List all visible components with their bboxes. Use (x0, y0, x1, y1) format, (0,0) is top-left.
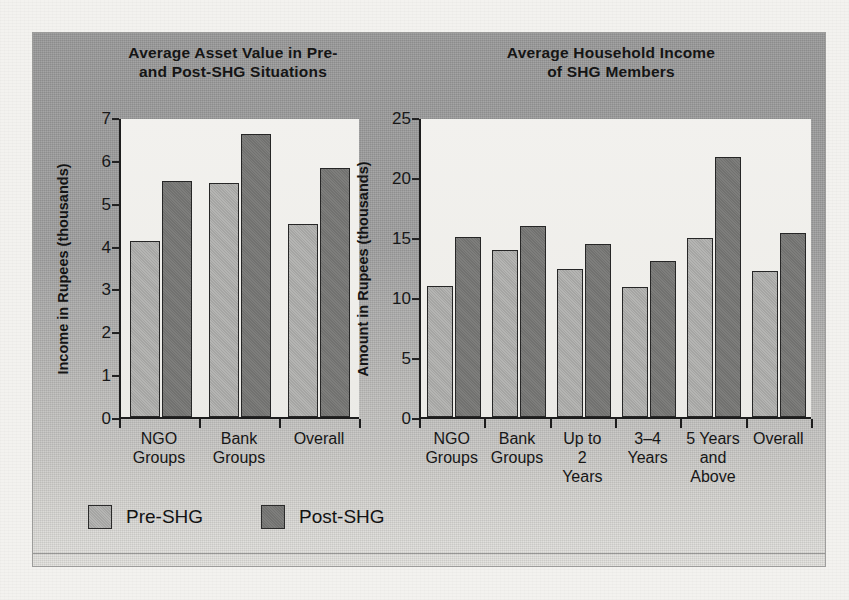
x-tick-mark (615, 419, 617, 428)
chart-title-right-line2: of SHG Members (437, 62, 785, 81)
y-axis-label-right-text: Amount in Rupees (thousands) (355, 161, 371, 376)
y-tick-mark (412, 298, 419, 300)
x-tick-mark (419, 419, 421, 428)
y-tick-mark (112, 247, 119, 249)
chart-title-left-line1: Average Asset Value in Pre- (59, 43, 407, 62)
y-tick-label: 0 (102, 409, 111, 429)
plot-area-right (419, 119, 811, 419)
y-tick-mark (112, 204, 119, 206)
x-tick-mark (680, 419, 682, 428)
x-axis-label-line: Groups (199, 448, 279, 467)
figure-legend: Pre-SHG Post-SHG (88, 505, 385, 529)
bar-pre-shg (752, 271, 778, 417)
y-tick-label: 10 (392, 289, 411, 309)
x-axis-label-line: Groups (419, 448, 484, 467)
x-axis-label-line: Bank (199, 429, 279, 448)
y-tick-label: 5 (102, 195, 111, 215)
x-tick-mark (746, 419, 748, 428)
bar-post-shg (162, 181, 192, 417)
chart-title-left-line2: and Post-SHG Situations (59, 62, 407, 81)
x-axis-label-line: Groups (484, 448, 549, 467)
x-axis-label: BankGroups (484, 429, 549, 486)
x-axis-label-line: Up to (550, 429, 615, 448)
x-tick-mark (199, 419, 201, 428)
x-axis-label-line: and (680, 448, 745, 467)
y-tick-mark (412, 178, 419, 180)
chart-title-right: Average Household Income of SHG Members (427, 43, 825, 81)
chart-title-left: Average Asset Value in Pre- and Post-SHG… (33, 43, 427, 81)
y-tick-label: 6 (102, 152, 111, 172)
x-axis-label: NGOGroups (419, 429, 484, 486)
bar-group (486, 119, 551, 417)
y-tick-label: 1 (102, 366, 111, 386)
bar-pre-shg (557, 269, 583, 417)
y-axis-ticks-left: 01234567 (75, 119, 119, 419)
bar-series-left (121, 119, 359, 417)
y-axis-label-right: Amount in Rupees (thousands) (351, 119, 375, 419)
y-tick-label: 5 (402, 349, 411, 369)
plot-area-left (119, 119, 359, 419)
x-tick-mark (279, 419, 281, 428)
bar-pre-shg (687, 238, 713, 417)
chart-titles: Average Asset Value in Pre- and Post-SHG… (33, 43, 825, 81)
legend-label-post-shg: Post-SHG (299, 506, 385, 528)
y-tick-label: 4 (102, 238, 111, 258)
x-tick-mark (484, 419, 486, 428)
x-axis-labels-right: NGOGroupsBankGroupsUp to2Years3–4Years5 … (419, 429, 811, 486)
legend-swatch-post-shg-icon (261, 505, 285, 529)
bar-post-shg (780, 233, 806, 417)
bar-pre-shg (622, 287, 648, 417)
bar-pre-shg (492, 250, 518, 417)
y-tick-mark (112, 418, 119, 420)
y-tick-mark (112, 161, 119, 163)
x-axis-label-line: 2 (550, 448, 615, 467)
x-axis-label: 5 YearsandAbove (680, 429, 745, 486)
y-tick-label: 20 (392, 169, 411, 189)
bar-post-shg (585, 244, 611, 417)
x-axis-ticks-left (119, 419, 359, 428)
x-axis-label-line: Overall (746, 429, 811, 448)
bar-pre-shg (427, 286, 453, 417)
y-tick-mark (112, 289, 119, 291)
x-axis-label: Overall (279, 429, 359, 467)
y-tick-mark (112, 332, 119, 334)
panel-bottom-rule (33, 553, 825, 554)
x-axis-ticks-right (419, 419, 811, 428)
bar-post-shg (241, 134, 271, 417)
x-axis-label: Up to2Years (550, 429, 615, 486)
legend-label-pre-shg: Pre-SHG (126, 506, 203, 528)
bar-group (200, 119, 279, 417)
x-axis-label: NGOGroups (119, 429, 199, 467)
bar-post-shg (715, 157, 741, 417)
bar-pre-shg (130, 241, 160, 417)
bar-group (121, 119, 200, 417)
x-axis-labels-left: NGOGroupsBankGroupsOverall (119, 429, 359, 467)
x-axis-label-line: NGO (119, 429, 199, 448)
bar-group (681, 119, 746, 417)
y-tick-label: 3 (102, 280, 111, 300)
y-axis-ticks-right: 0510152025 (375, 119, 419, 419)
y-axis-label-left: Income in Rupees (thousands) (51, 119, 75, 419)
legend-item-post-shg: Post-SHG (261, 505, 385, 529)
legend-swatch-pre-shg-icon (88, 505, 112, 529)
y-tick-label: 2 (102, 323, 111, 343)
y-axis-label-left-text: Income in Rupees (thousands) (55, 163, 71, 374)
x-axis-label: 3–4Years (615, 429, 680, 486)
x-axis-label-line: Overall (279, 429, 359, 448)
y-tick-label: 7 (102, 109, 111, 129)
x-tick-mark (811, 419, 813, 428)
x-axis-label-line: Years (550, 467, 615, 486)
legend-item-pre-shg: Pre-SHG (88, 505, 203, 529)
bar-post-shg (520, 226, 546, 417)
x-axis-label-line: Bank (484, 429, 549, 448)
bar-pre-shg (209, 183, 239, 417)
bar-group (421, 119, 486, 417)
y-tick-mark (412, 238, 419, 240)
y-tick-mark (412, 358, 419, 360)
figure-panel: Average Asset Value in Pre- and Post-SHG… (33, 33, 825, 566)
bar-series-right (421, 119, 811, 417)
y-tick-mark (112, 118, 119, 120)
x-tick-mark (119, 419, 121, 428)
x-axis-label-line: 5 Years (680, 429, 745, 448)
chart-title-right-line1: Average Household Income (437, 43, 785, 62)
